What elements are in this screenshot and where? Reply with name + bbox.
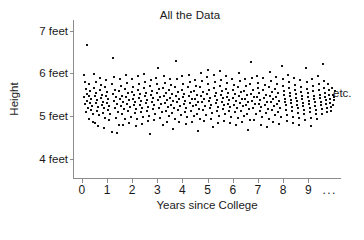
data-point bbox=[112, 93, 114, 95]
data-point bbox=[234, 111, 236, 113]
data-point bbox=[144, 81, 146, 83]
data-point bbox=[217, 122, 219, 124]
data-point bbox=[249, 83, 251, 85]
data-point bbox=[123, 108, 125, 110]
x-tick-label: 6 bbox=[229, 183, 236, 197]
data-point bbox=[111, 83, 113, 85]
data-point bbox=[202, 109, 204, 111]
data-point bbox=[118, 90, 120, 92]
data-point bbox=[247, 101, 249, 103]
data-point bbox=[225, 88, 227, 90]
data-point bbox=[240, 110, 242, 112]
data-point bbox=[166, 121, 168, 123]
data-point bbox=[262, 89, 264, 91]
data-point bbox=[176, 78, 178, 80]
data-point bbox=[228, 99, 230, 101]
data-point bbox=[206, 76, 208, 78]
data-point bbox=[330, 110, 332, 112]
y-tick-mark bbox=[70, 73, 74, 74]
data-point bbox=[238, 72, 240, 74]
data-point bbox=[324, 92, 326, 94]
data-point bbox=[124, 88, 126, 90]
data-point bbox=[236, 107, 238, 109]
data-point bbox=[147, 106, 149, 108]
data-point bbox=[186, 116, 188, 118]
y-tick-mark bbox=[70, 31, 74, 32]
data-point bbox=[143, 87, 145, 89]
data-point bbox=[209, 107, 211, 109]
data-point bbox=[92, 121, 94, 123]
data-point bbox=[234, 93, 236, 95]
data-point bbox=[199, 86, 201, 88]
data-point bbox=[152, 108, 154, 110]
data-point bbox=[254, 103, 256, 105]
data-point bbox=[329, 98, 331, 100]
data-point bbox=[300, 86, 302, 88]
data-point bbox=[117, 111, 119, 113]
data-point bbox=[297, 112, 299, 114]
data-point bbox=[88, 118, 90, 120]
data-point bbox=[89, 90, 91, 92]
data-point bbox=[124, 118, 126, 120]
data-point bbox=[210, 118, 212, 120]
data-point bbox=[317, 75, 319, 77]
data-point bbox=[295, 93, 297, 95]
data-point bbox=[309, 111, 311, 113]
data-point bbox=[228, 110, 230, 112]
data-point bbox=[129, 106, 131, 108]
x-tick-label: 8 bbox=[280, 183, 287, 197]
data-point bbox=[203, 98, 205, 100]
data-point bbox=[284, 101, 286, 103]
data-point bbox=[106, 102, 108, 104]
data-point bbox=[97, 125, 99, 127]
data-point bbox=[266, 126, 268, 128]
data-point bbox=[291, 106, 293, 108]
data-point bbox=[127, 92, 129, 94]
data-point bbox=[238, 95, 240, 97]
data-point bbox=[121, 95, 123, 97]
data-point bbox=[232, 89, 234, 91]
data-point bbox=[141, 123, 143, 125]
data-point bbox=[227, 103, 229, 105]
data-point bbox=[211, 112, 213, 114]
data-point bbox=[112, 57, 114, 59]
data-point bbox=[320, 101, 322, 103]
data-point bbox=[162, 124, 164, 126]
data-point bbox=[103, 107, 105, 109]
data-point bbox=[260, 124, 262, 126]
data-point bbox=[303, 109, 305, 111]
data-point bbox=[131, 91, 133, 93]
data-point bbox=[163, 95, 165, 97]
data-point bbox=[208, 89, 210, 91]
data-point bbox=[292, 116, 294, 118]
data-point bbox=[189, 102, 191, 104]
data-point bbox=[113, 76, 115, 78]
data-point bbox=[207, 69, 209, 71]
data-point bbox=[219, 70, 221, 72]
data-point bbox=[229, 122, 231, 124]
data-point bbox=[146, 110, 148, 112]
data-point bbox=[93, 87, 95, 89]
data-point bbox=[307, 92, 309, 94]
data-point bbox=[319, 97, 321, 99]
data-point bbox=[164, 102, 166, 104]
data-point bbox=[171, 112, 173, 114]
data-point bbox=[325, 103, 327, 105]
data-point bbox=[125, 74, 127, 76]
data-point bbox=[285, 104, 287, 106]
data-point bbox=[171, 93, 173, 95]
data-point bbox=[285, 109, 287, 111]
data-point bbox=[214, 81, 216, 83]
data-point bbox=[218, 115, 220, 117]
data-point bbox=[297, 107, 299, 109]
data-point bbox=[298, 124, 300, 126]
data-point bbox=[183, 103, 185, 105]
data-point bbox=[232, 97, 234, 99]
data-point bbox=[156, 92, 158, 94]
data-point bbox=[184, 111, 186, 113]
data-point bbox=[106, 91, 108, 93]
y-tick-label: 7 feet bbox=[39, 25, 68, 37]
data-point bbox=[132, 86, 134, 88]
data-point bbox=[301, 95, 303, 97]
data-point bbox=[327, 83, 329, 85]
